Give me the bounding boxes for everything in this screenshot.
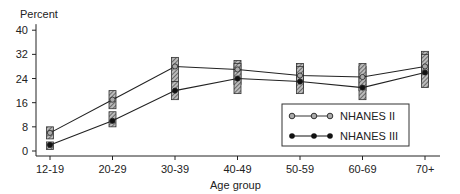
data-point [172, 64, 177, 69]
data-point [360, 74, 365, 79]
x-tick-label: 50-59 [286, 163, 314, 175]
data-point [297, 73, 302, 78]
legend-label-nhanes-iii: NHANES III [340, 130, 398, 142]
data-point [47, 130, 52, 135]
y-tick-label: 32 [16, 48, 28, 60]
data-point [297, 79, 302, 84]
data-point [360, 85, 365, 90]
x-tick-label: 60-69 [348, 163, 376, 175]
data-point [47, 142, 52, 147]
y-tick-label: 16 [16, 97, 28, 109]
axes: 081624324012-1920-2930-3940-4950-5960-69… [16, 24, 440, 175]
y-tick-label: 24 [16, 73, 28, 85]
x-tick-label: 12-19 [36, 163, 64, 175]
x-tick-label: 40-49 [223, 163, 251, 175]
y-axis-label: Percent [20, 8, 58, 20]
data-point [235, 67, 240, 72]
prevalence-line-chart: Percent Age group 081624324012-1920-2930… [0, 0, 460, 194]
y-tick-label: 0 [22, 145, 28, 157]
data-point [172, 88, 177, 93]
x-tick-label: 30-39 [161, 163, 189, 175]
data-point [422, 64, 427, 69]
y-tick-label: 40 [16, 24, 28, 36]
data-point [422, 70, 427, 75]
data-point [110, 118, 115, 123]
x-tick-label: 20-29 [98, 163, 126, 175]
legend: NHANES II NHANES III [282, 104, 409, 146]
x-axis-label: Age group [210, 179, 261, 191]
data-point [110, 97, 115, 102]
legend-label-nhanes-ii: NHANES II [340, 110, 395, 122]
x-tick-label: 70+ [416, 163, 435, 175]
data-point [235, 76, 240, 81]
y-tick-label: 8 [22, 121, 28, 133]
